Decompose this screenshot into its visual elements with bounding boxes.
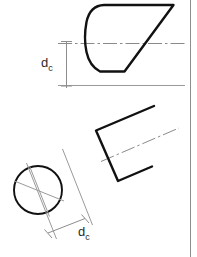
dc-bottom-extension-right [63,149,93,225]
drawing-canvas [0,0,197,257]
dc-top-label: dc [41,56,53,73]
channel-profile-outline [96,106,154,181]
dc-bottom-label: dc [78,225,90,242]
dc-bottom-subscript: c [85,232,90,242]
dc-bottom-tick-left [45,230,53,239]
dc-bottom-extension-left [27,163,57,239]
dc-top-subscript: c [48,63,53,73]
technical-drawing-figure: dc dc [0,0,197,257]
circle-centerline-b [30,166,50,217]
channel-axis-centerline [101,128,179,162]
dc-bottom-tick-right [82,215,90,224]
tube-outline-side-view [85,5,174,72]
